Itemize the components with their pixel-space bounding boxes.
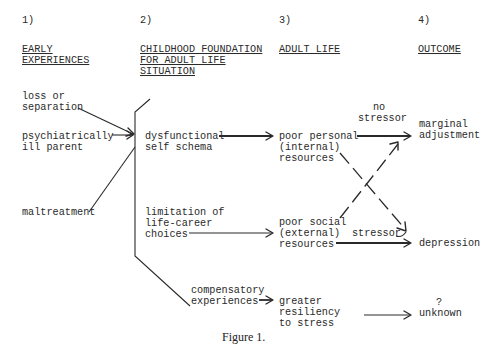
- node-line: ?: [436, 297, 442, 308]
- node-line: choices: [145, 229, 188, 240]
- edge-social-to-marginal-dashed: [340, 144, 398, 218]
- node-psychiatrically-ill-parent: psychiatrically ill parent: [22, 131, 114, 153]
- node-loss-or-separation: loss or separation: [22, 91, 83, 113]
- node-line: maltreatment: [22, 207, 95, 218]
- node-line: dysfunctional: [145, 131, 224, 142]
- heading-outcome: OUTCOME: [418, 44, 461, 55]
- heading-childhood-foundation: CHILDHOOD FOUNDATION FOR ADULT LIFE SITU…: [140, 44, 262, 77]
- node-line: loss or: [22, 91, 65, 102]
- node-line: poor personal: [279, 131, 358, 142]
- heading-line: CHILDHOOD FOUNDATION: [140, 44, 262, 55]
- edge-maltreatment-to-bracket: [89, 147, 135, 212]
- node-line: compensatory: [191, 285, 264, 296]
- node-line: experiences: [191, 296, 258, 307]
- node-line: greater: [279, 296, 322, 307]
- node-line: psychiatrically: [22, 131, 114, 142]
- node-line: resources: [279, 153, 334, 164]
- node-unknown: ? unknown: [419, 297, 462, 319]
- node-line: adjustment: [419, 130, 480, 141]
- label-no-stressor: no stressor: [358, 102, 407, 124]
- node-dysfunctional-self-schema: dysfunctional self schema: [145, 131, 224, 153]
- node-line: resources: [279, 239, 334, 250]
- heading-line: OUTCOME: [418, 44, 461, 55]
- node-line: ill parent: [22, 142, 83, 153]
- node-line: marginal: [419, 119, 468, 130]
- heading-line: FOR ADULT LIFE: [140, 55, 226, 66]
- label-stressor: stressor: [352, 228, 401, 239]
- figure-diagram: 1) 2) 3) 4) EARLY EXPERIENCES CHILDHOOD …: [0, 0, 492, 347]
- heading-line: SITUATION: [140, 66, 195, 77]
- node-poor-social-resources: poor social (external) resources: [279, 217, 346, 250]
- column-number-3: 3): [279, 15, 291, 26]
- column-number-1: 1): [22, 15, 34, 26]
- label-line: stressor: [358, 113, 407, 124]
- heading-early-experiences: EARLY EXPERIENCES: [22, 44, 89, 66]
- node-depression: depression: [419, 238, 480, 249]
- heading-line: ADULT LIFE: [279, 44, 340, 55]
- heading-adult-life: ADULT LIFE: [279, 44, 340, 55]
- node-maltreatment: maltreatment: [22, 207, 95, 218]
- node-marginal-adjustment: marginal adjustment: [419, 119, 480, 141]
- node-limitation-of-life-career-choices: limitation of life-career choices: [145, 207, 224, 240]
- node-line: (internal): [279, 142, 340, 153]
- node-compensatory-experiences: compensatory experiences: [191, 285, 264, 307]
- node-line: depression: [419, 238, 480, 249]
- node-line: (external): [279, 228, 340, 239]
- node-line: separation: [22, 102, 83, 113]
- node-line: limitation of: [145, 207, 224, 218]
- heading-line: EARLY: [22, 44, 53, 55]
- column-number-2: 2): [140, 15, 152, 26]
- node-poor-personal-resources: poor personal (internal) resources: [279, 131, 358, 164]
- heading-line: EXPERIENCES: [22, 55, 89, 66]
- node-line: self schema: [145, 142, 212, 153]
- column-number-4: 4): [418, 15, 430, 26]
- label-line: no: [373, 102, 385, 113]
- node-line: unknown: [419, 308, 462, 319]
- figure-caption: Figure 1.: [222, 330, 265, 344]
- node-line: to stress: [279, 318, 334, 329]
- edge-personal-to-depression-dashed: [340, 153, 405, 229]
- node-line: life-career: [145, 218, 212, 229]
- node-line: poor social: [279, 217, 346, 228]
- node-greater-resiliency: greater resiliency to stress: [279, 296, 340, 329]
- node-line: resiliency: [279, 307, 340, 318]
